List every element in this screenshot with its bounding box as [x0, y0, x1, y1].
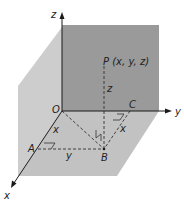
y-arrow-icon: [165, 109, 172, 114]
x-axis-label: x: [3, 190, 10, 201]
z-arrow-icon: [60, 12, 65, 19]
segment-cb-label: x: [119, 123, 126, 134]
point-b-label: B: [101, 152, 108, 163]
point-a-label: A: [27, 143, 35, 154]
point-b-dot: [103, 148, 106, 151]
coordinate-diagram: z y x O P (x, y, z) A B C z x y x: [0, 0, 184, 202]
point-c-label: C: [129, 99, 136, 110]
y-axis-label: y: [174, 106, 182, 117]
z-axis-label: z: [50, 9, 57, 20]
x-arrow-icon: [11, 181, 17, 189]
back-wall-yz-plane: [62, 25, 159, 111]
point-p-label: P (x, y, z): [103, 56, 149, 67]
segment-oa-label: x: [52, 124, 59, 135]
segment-ab-label: y: [65, 150, 73, 161]
origin-label: O: [52, 104, 60, 115]
segment-pb-label: z: [106, 83, 113, 94]
